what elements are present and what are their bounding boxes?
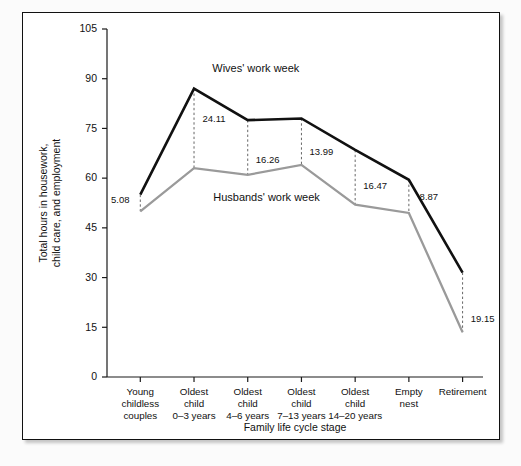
- gap-value-label: 16.26: [256, 154, 280, 165]
- x-category-label: couples: [123, 410, 157, 421]
- x-category-label: Oldest: [341, 386, 370, 397]
- series-label-husbands: Husbands' work week: [213, 191, 320, 203]
- gap-value-label: 16.47: [363, 180, 387, 191]
- y-tick-label: 105: [79, 22, 97, 34]
- y-axis-title: Total hours in housework, child care, an…: [37, 139, 62, 267]
- gap-connector-lines: [140, 89, 462, 333]
- y-tick-label: 30: [85, 271, 97, 283]
- x-category-label: Young: [127, 386, 154, 397]
- gap-value-label: 19.15: [471, 313, 495, 324]
- x-category-label: 7–13 years: [277, 410, 326, 421]
- gap-value-label: 8.87: [420, 191, 439, 202]
- chart-figure: 0153045607590105 YoungchildlesscouplesOl…: [22, 12, 500, 440]
- series-label-wives: Wives' work week: [212, 62, 300, 74]
- x-axis-ticks: [140, 377, 462, 382]
- y-axis-ticks: [102, 29, 107, 377]
- x-category-label: Oldest: [234, 386, 263, 397]
- x-category-label: nest: [400, 398, 419, 409]
- y-tick-label: 15: [85, 321, 97, 333]
- y-tick-label: 0: [91, 370, 97, 382]
- x-category-label: Oldest: [287, 386, 316, 397]
- y-tick-label: 60: [85, 171, 97, 183]
- y-tick-label: 45: [85, 221, 97, 233]
- y-tick-label: 75: [85, 122, 97, 134]
- x-category-label: child: [184, 398, 204, 409]
- gap-value-label: 5.08: [111, 194, 130, 205]
- x-category-label: Oldest: [180, 386, 209, 397]
- x-category-label: Retirement: [439, 386, 487, 397]
- x-category-label: child: [291, 398, 311, 409]
- y-axis-tick-labels: 0153045607590105: [79, 22, 97, 382]
- x-category-label: childless: [122, 398, 160, 409]
- gap-value-label: 24.11: [202, 113, 225, 124]
- x-category-label: 14–20 years: [328, 410, 382, 421]
- gap-value-label: 13.99: [310, 146, 334, 157]
- x-category-label: child: [345, 398, 365, 409]
- x-axis-category-labels: YoungchildlesscouplesOldestchild0–3 year…: [122, 386, 487, 421]
- x-category-label: 4–6 years: [226, 410, 269, 421]
- x-axis-title: Family life cycle stage: [244, 421, 347, 433]
- series-line-wives: [140, 89, 462, 273]
- y-axis-title-line1: Total hours in housework,: [37, 143, 49, 262]
- x-category-label: child: [238, 398, 258, 409]
- x-category-label: Empty: [395, 386, 423, 397]
- line-chart: 0153045607590105 YoungchildlesscouplesOl…: [23, 13, 498, 438]
- y-axis-title-line2: child care, and employment: [50, 139, 62, 267]
- gap-value-labels: 5.0824.1116.2613.9916.478.8719.15: [111, 113, 494, 323]
- x-category-label: 0–3 years: [173, 410, 216, 421]
- y-tick-label: 90: [85, 72, 97, 84]
